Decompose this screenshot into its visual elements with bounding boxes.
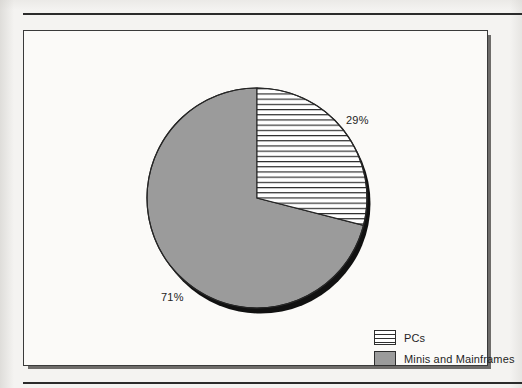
top-divider-rule [23, 13, 522, 15]
legend-item-minis-and-mainframes[interactable]: Minis and Mainframes [374, 351, 515, 366]
slice-label-pcs: 29% [346, 114, 369, 126]
pie-chart [24, 31, 489, 367]
legend-item-pcs[interactable]: PCs [374, 330, 515, 345]
bottom-divider-rule [23, 382, 522, 384]
legend-swatch-hatch-icon [374, 330, 396, 345]
legend-label-minis-and-mainframes: Minis and Mainframes [404, 353, 515, 365]
slice-label-minis-and-mainframes: 71% [161, 291, 184, 303]
chart-legend: PCs Minis and Mainframes [374, 330, 515, 366]
legend-swatch-solid-icon [374, 351, 396, 366]
legend-label-pcs: PCs [404, 332, 425, 344]
chart-plot-area: 29% 71% PCs Minis and Mainframes [24, 31, 487, 365]
figure-frame: 29% 71% PCs Minis and Mainframes [23, 30, 488, 366]
